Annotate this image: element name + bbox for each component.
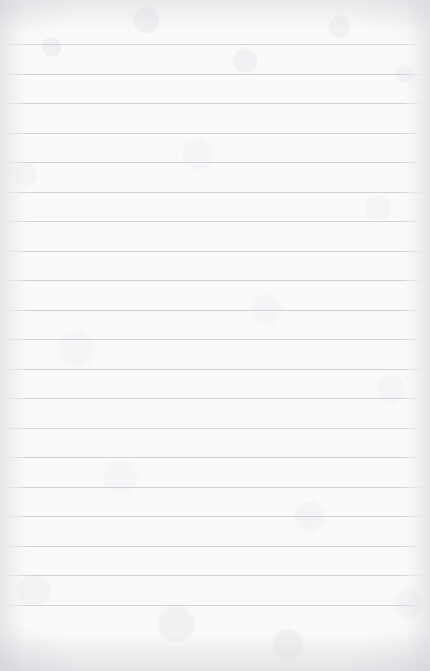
lined-paper-sheet [0, 0, 430, 671]
writing-area[interactable] [5, 44, 423, 624]
